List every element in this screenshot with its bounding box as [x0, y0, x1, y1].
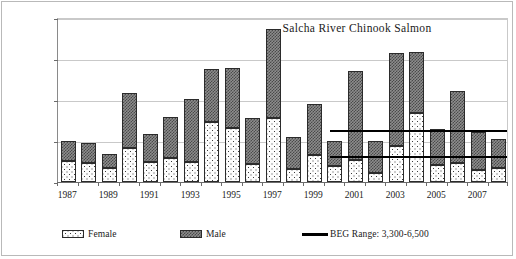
x-tick-mark-1995 [221, 182, 222, 186]
x-tick-label-1991: 1991 [132, 190, 166, 200]
bar-segment-female-2007 [471, 170, 486, 182]
x-tick-mark-2008 [488, 182, 489, 186]
bar-group-1993 [184, 18, 199, 182]
y-tick-mark-15000 [54, 60, 58, 61]
chart-title: Salcha River Chinook Salmon [283, 22, 432, 34]
x-tick-mark-2007 [467, 182, 468, 186]
male-swatch-icon [180, 230, 202, 238]
bar-group-1990 [122, 18, 137, 182]
bar-segment-male-1987 [61, 141, 76, 160]
bar-segment-male-1993 [184, 99, 199, 161]
x-tick-label-1995: 1995 [214, 190, 248, 200]
bar-segment-female-2008 [491, 168, 506, 182]
bar-segment-male-2005 [430, 129, 445, 165]
bar-segment-male-1995 [225, 68, 240, 128]
legend-item-beg-range: BEG Range: 3,300-6,500 [302, 229, 429, 239]
bar-segment-female-1987 [61, 161, 76, 182]
bar-segment-female-2004 [409, 113, 424, 182]
bar-group-1991 [143, 18, 158, 182]
x-tick-label-2007: 2007 [460, 190, 494, 200]
bar-segment-female-1989 [102, 168, 117, 182]
legend-label-female: Female [88, 229, 117, 239]
bar-segment-female-2005 [430, 165, 445, 182]
x-tick-mark-1991 [139, 182, 140, 186]
bar-segment-female-1994 [204, 122, 219, 182]
bar-segment-male-1998 [286, 137, 301, 169]
bar-segment-male-2001 [348, 71, 363, 160]
x-tick-label-1989: 1989 [91, 190, 125, 200]
y-tick-mark-10000 [54, 101, 58, 102]
bar-segment-female-2003 [389, 146, 404, 182]
bar-group-1989 [102, 18, 117, 182]
beg-range-line-icon [302, 233, 328, 236]
x-tick-mark-2004 [406, 182, 407, 186]
x-tick-mark-1998 [283, 182, 284, 186]
x-tick-label-1999: 1999 [296, 190, 330, 200]
bar-segment-male-1991 [143, 134, 158, 161]
chart-legend: Female Male BEG Range: 3,300-6,500 [2, 213, 512, 257]
bar-group-1997 [266, 18, 281, 182]
bar-segment-male-2007 [471, 132, 486, 170]
x-tick-mark-1996 [242, 182, 243, 186]
bar-segment-female-1997 [266, 118, 281, 182]
legend-label-male: Male [206, 229, 226, 239]
x-tick-label-2003: 2003 [378, 190, 412, 200]
y-tick-mark-5000 [54, 142, 58, 143]
bar-segment-female-2006 [450, 163, 465, 182]
bar-group-1996 [245, 18, 260, 182]
female-swatch-icon [62, 230, 84, 238]
bar-group-1988 [81, 18, 96, 182]
x-tick-mark-1987 [57, 182, 58, 186]
x-tick-mark-1988 [78, 182, 79, 186]
bar-segment-male-1992 [163, 117, 178, 158]
bar-segment-male-1988 [81, 143, 96, 163]
bar-group-1992 [163, 18, 178, 182]
bar-segment-female-2000 [327, 166, 342, 182]
bar-segment-female-1999 [307, 155, 322, 182]
y-axis-title: Escapement (number of fish) [0, 0, 4, 18]
x-tick-mark-1989 [98, 182, 99, 186]
x-tick-mark-1990 [119, 182, 120, 186]
bar-segment-female-1988 [81, 163, 96, 182]
legend-label-beg-range: BEG Range: 3,300-6,500 [330, 229, 429, 239]
legend-item-female: Female [62, 229, 117, 239]
bar-segment-male-2006 [450, 91, 465, 163]
y-tick-mark-20000 [54, 19, 58, 20]
x-tick-mark-1992 [160, 182, 161, 186]
bar-segment-female-1992 [163, 158, 178, 182]
x-tick-mark-2002 [365, 182, 366, 186]
x-tick-mark-2000 [324, 182, 325, 186]
bar-segment-female-1995 [225, 128, 240, 182]
bar-segment-male-2000 [327, 141, 342, 166]
bar-segment-male-1996 [245, 118, 260, 164]
x-tick-label-2001: 2001 [337, 190, 371, 200]
beg-range-line-upper [330, 130, 507, 132]
bar-segment-male-1997 [266, 29, 281, 118]
beg-range-line-lower [330, 156, 507, 158]
plot-area [57, 18, 508, 183]
x-tick-mark-2003 [385, 182, 386, 186]
x-tick-label-1987: 1987 [50, 190, 84, 200]
bar-segment-male-1989 [102, 154, 117, 169]
bar-group-1995 [225, 18, 240, 182]
bar-segment-male-1999 [307, 104, 322, 154]
bar-segment-female-1998 [286, 169, 301, 182]
bar-segment-female-1996 [245, 164, 260, 182]
bar-group-1994 [204, 18, 219, 182]
bar-segment-male-1994 [204, 69, 219, 122]
bar-group-1998 [286, 18, 301, 182]
bar-segment-female-2001 [348, 160, 363, 182]
x-tick-mark-1994 [201, 182, 202, 186]
bar-segment-female-2002 [368, 173, 383, 182]
x-tick-mark-1993 [180, 182, 181, 186]
x-tick-mark-2006 [447, 182, 448, 186]
bar-segment-female-1991 [143, 162, 158, 183]
bar-segment-female-1990 [122, 148, 137, 182]
bar-segment-male-1990 [122, 93, 137, 148]
chart-page: Escapement (number of fish) Salcha River… [0, 0, 516, 259]
x-tick-mark-2005 [426, 182, 427, 186]
x-tick-mark-end [507, 182, 508, 186]
x-tick-mark-2001 [344, 182, 345, 186]
x-tick-mark-1999 [303, 182, 304, 186]
x-tick-label-1997: 1997 [255, 190, 289, 200]
